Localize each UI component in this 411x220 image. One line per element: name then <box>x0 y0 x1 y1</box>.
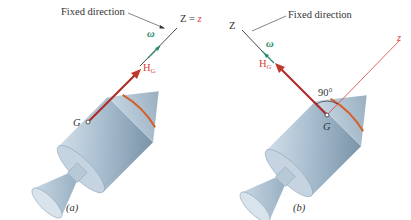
axis-Z-label-a: Z = z <box>180 13 202 24</box>
center-of-mass-point-a <box>86 120 90 124</box>
fixed-direction-label-b: Fixed direction <box>288 9 353 20</box>
axis-Z-label-b: Z <box>229 20 235 31</box>
center-label-b: G <box>323 121 331 132</box>
HG-label-a: HG <box>143 62 156 75</box>
panel-b: Fixed direction Z z ω HG 90° G (b) <box>227 9 401 220</box>
center-label-a: G <box>73 117 81 128</box>
fixed-axis-line-b <box>242 30 262 51</box>
spacecraft-body-b <box>227 73 389 220</box>
omega-label-a: ω <box>147 28 155 39</box>
center-of-mass-point-b <box>325 113 329 117</box>
angle-label-b: 90° <box>318 87 333 98</box>
figure-canvas: Fixed direction Z = z ω HG G (a) <box>0 0 411 220</box>
leader-line-b <box>252 16 286 31</box>
spacecraft-body-a <box>19 69 181 220</box>
fixed-direction-label-a: Fixed direction <box>61 6 126 17</box>
omega-label-b: ω <box>266 38 274 49</box>
leader-line-a <box>128 13 164 28</box>
caption-a: (a) <box>66 202 79 214</box>
caption-b: (b) <box>293 202 306 214</box>
panel-a: Fixed direction Z = z ω HG G (a) <box>19 6 201 220</box>
HG-label-b: HG <box>259 58 272 71</box>
axis-z-label-b: z <box>396 32 401 43</box>
